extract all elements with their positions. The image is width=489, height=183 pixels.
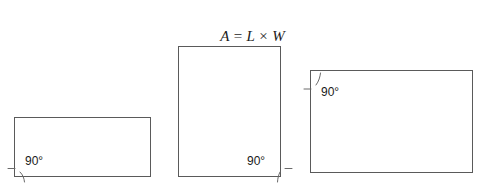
rectangle-2	[178, 46, 281, 177]
formula-times-operator: ×	[255, 28, 272, 44]
angle-label-rectangle-2: 90°	[247, 155, 265, 168]
angle-label-rectangle-1: 90°	[25, 155, 43, 168]
angle-label-rectangle-3: 90°	[321, 86, 339, 99]
formula-width-symbol: W	[272, 28, 285, 44]
formula-area-symbol: A	[220, 28, 229, 44]
formula-equals: =	[230, 28, 247, 44]
figure-canvas: A = L × W 90° 90° 90°	[0, 0, 489, 183]
formula-length-symbol: L	[247, 28, 256, 44]
